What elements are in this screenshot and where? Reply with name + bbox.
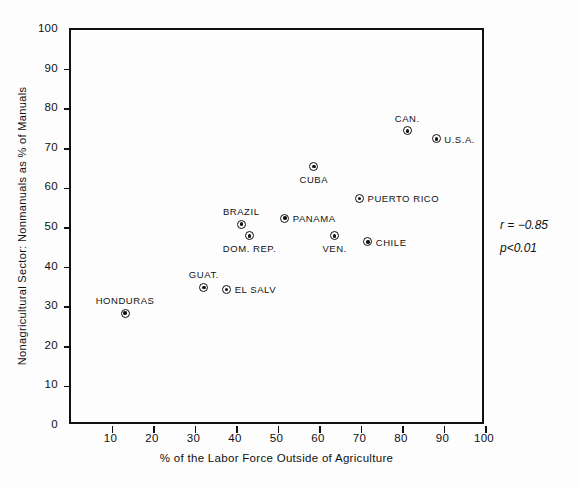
y-axis-tick-label: 10 xyxy=(16,378,58,390)
y-axis-tick xyxy=(64,306,71,308)
data-point-label: DOM. REP. xyxy=(223,243,276,254)
plot-area xyxy=(69,28,484,424)
data-point-label: VEN. xyxy=(322,243,346,254)
x-axis-tick-label: 40 xyxy=(228,432,241,444)
x-axis-title: % of the Labor Force Outside of Agricult… xyxy=(69,452,484,464)
y-axis-tick-label: 0 xyxy=(16,418,58,430)
y-axis-tick xyxy=(64,386,71,388)
x-axis-tick-label: 50 xyxy=(270,432,283,444)
x-axis-tick-label: 20 xyxy=(145,432,158,444)
y-axis-tick xyxy=(64,148,71,150)
x-axis-tick-label: 60 xyxy=(311,432,324,444)
y-axis-tick-label: 50 xyxy=(16,220,58,232)
y-axis-tick xyxy=(64,346,71,348)
x-axis-tick-label: 90 xyxy=(436,432,449,444)
data-point xyxy=(355,194,364,203)
y-axis-tick-label: 100 xyxy=(16,22,58,34)
statistics-annotation: r = −0.85 p<0.01 xyxy=(500,214,548,260)
data-point-label: EL SALV xyxy=(235,284,276,295)
p-value: p<0.01 xyxy=(500,237,548,260)
y-axis-tick-label: 80 xyxy=(16,101,58,113)
data-point-label: CHILE xyxy=(376,236,407,247)
y-axis-tick-label: 60 xyxy=(16,180,58,192)
data-point-label: CAN. xyxy=(395,113,420,124)
y-axis-tick-label: 40 xyxy=(16,260,58,272)
x-axis-tick-label: 10 xyxy=(104,432,117,444)
y-axis-tick xyxy=(64,267,71,269)
data-point-label: CUBA xyxy=(300,174,329,185)
data-point-label: HONDURAS xyxy=(96,295,155,306)
y-axis-tick-label: 70 xyxy=(16,141,58,153)
data-point xyxy=(222,285,231,294)
data-point-label: BRAZIL xyxy=(223,206,260,217)
y-axis-tick xyxy=(64,188,71,190)
scatter-plot-figure: Nonagricultural Sector: Nonmanuals as % … xyxy=(0,0,579,487)
data-point-label: U.S.A. xyxy=(444,133,475,144)
data-point-label: PANAMA xyxy=(293,213,336,224)
y-axis-tick-label: 30 xyxy=(16,299,58,311)
y-axis-tick-label: 90 xyxy=(16,62,58,74)
data-point xyxy=(237,220,246,229)
data-point xyxy=(280,214,289,223)
y-axis-tick xyxy=(64,69,71,71)
x-axis-tick-label: 100 xyxy=(474,432,494,444)
data-point-label: GUAT. xyxy=(189,269,219,280)
x-axis-tick-label: 80 xyxy=(394,432,407,444)
x-axis-tick-label: 70 xyxy=(353,432,366,444)
y-axis-tick xyxy=(64,227,71,229)
correlation-value: r = −0.85 xyxy=(500,214,548,237)
data-point xyxy=(121,309,130,318)
data-point-label: PUERTO RICO xyxy=(368,193,440,204)
y-axis-tick xyxy=(64,108,71,110)
x-axis-tick-label: 30 xyxy=(187,432,200,444)
y-axis-tick-label: 20 xyxy=(16,339,58,351)
